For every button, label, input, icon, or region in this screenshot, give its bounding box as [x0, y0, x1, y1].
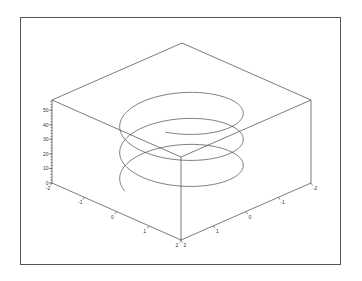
z-tick-label: 30	[43, 136, 49, 142]
z-tick-label: 10	[43, 165, 49, 171]
x-tick-label: 1	[143, 228, 146, 234]
y-tick-label: -1	[280, 199, 285, 205]
x-tick-label: -2	[46, 185, 51, 191]
x-tick-label: 2	[176, 242, 179, 248]
y-axis: 210-1-2	[181, 183, 317, 248]
z-tick-label: 40	[43, 122, 49, 128]
helix-line	[120, 92, 244, 191]
y-tick-label: 1	[216, 228, 219, 234]
x-tick-label: 0	[111, 214, 114, 220]
x-axis: -2-1012	[46, 183, 181, 248]
y-tick-label: 0	[249, 214, 252, 220]
axes-box	[52, 43, 311, 240]
plot-3d-canvas: 01020304050 -2-1012 210-1-2	[0, 0, 362, 281]
x-tick-label: -1	[78, 199, 83, 205]
z-tick-label: 20	[43, 151, 49, 157]
z-tick-label: 50	[43, 107, 49, 113]
helix-curve	[120, 92, 244, 191]
y-tick-label: -2	[313, 185, 318, 191]
z-axis: 01020304050	[43, 101, 52, 185]
y-tick-label: 2	[184, 242, 187, 248]
